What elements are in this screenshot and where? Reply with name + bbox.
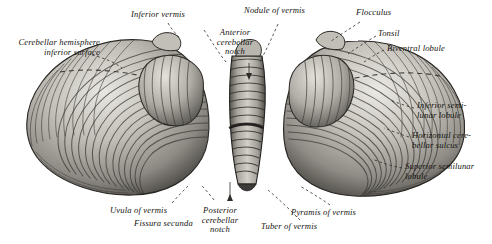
label-pyramis-of-vermis: Pyramis of vermis — [291, 208, 356, 218]
cerebellum-inferior-surface-figure: Cerebellar hemisphere inferior surface I… — [0, 0, 492, 244]
label-inferior-semilunar-lobule: Inferior semi- lunar lobule — [417, 101, 467, 120]
label-flocculus: Flocculus — [356, 8, 391, 18]
label-biventral-lobule: Biventral lobule — [387, 44, 445, 54]
label-superior-semilunar-lobule: Superior semilunar lobule — [405, 162, 474, 181]
label-tonsil: Tonsil — [378, 29, 400, 39]
label-cerebellar-hemisphere-inferior-surface: Cerebellar hemisphere inferior surface — [0, 38, 100, 57]
label-fissura-secunda: Fissura secunda — [134, 219, 193, 229]
label-posterior-cerebellar-notch: Posterior cerebellar notch — [192, 206, 248, 235]
label-horizontal-cerebellar-sulcus: Horizontal cere- bellar sulcus — [412, 131, 471, 150]
label-inferior-vermis: Inferior vermis — [131, 10, 185, 20]
label-uvula-of-vermis: Uvula of vermis — [110, 206, 167, 216]
label-nodule-of-vermis: Nodule of vermis — [244, 6, 305, 16]
label-tuber-of-vermis: Tuber of vermis — [261, 222, 317, 232]
label-anterior-cerebellar-notch: Anterior cerebellar notch — [207, 28, 263, 57]
